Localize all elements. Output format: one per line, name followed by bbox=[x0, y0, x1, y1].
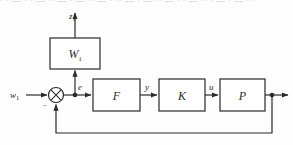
plant-block: P bbox=[220, 79, 265, 111]
controller-block-label: K bbox=[177, 89, 187, 103]
z-output-signal-label: z1 bbox=[68, 11, 76, 22]
weighting-block: W1 bbox=[50, 38, 100, 69]
filter-block-label: F bbox=[112, 89, 121, 103]
controller-block: K bbox=[159, 79, 205, 111]
summing-junction bbox=[49, 88, 64, 103]
filter-block: F bbox=[93, 79, 140, 111]
filter-output-signal-label: y bbox=[144, 82, 149, 92]
input-signal-label: w1 bbox=[10, 90, 19, 101]
error-signal-label: e bbox=[78, 82, 82, 92]
block-diagram: W1 F K P bbox=[0, 0, 293, 145]
figure-canvas: · · — · · — ·· — · — ·· — · ·· — · — ·· … bbox=[0, 0, 293, 145]
plant-block-label: P bbox=[238, 89, 247, 103]
controller-output-signal-label: u bbox=[209, 82, 214, 92]
feedback-sign-label: − bbox=[42, 100, 47, 110]
